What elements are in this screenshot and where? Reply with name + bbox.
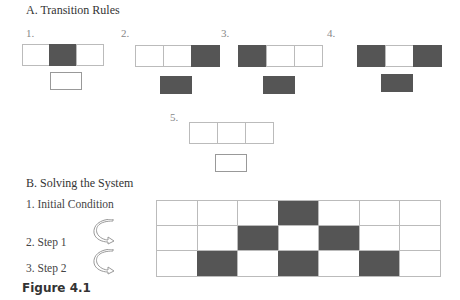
- rule-number: 3.: [221, 27, 229, 39]
- rule-cell: [22, 44, 50, 66]
- grid-cell: [197, 201, 238, 226]
- grid-cell: [157, 201, 198, 226]
- rule-cell: [294, 45, 323, 67]
- rule-cell: [245, 122, 274, 144]
- rule-output: [215, 154, 247, 172]
- grid-cell: [278, 226, 319, 251]
- grid-cell: [400, 251, 440, 276]
- rule-cell: [191, 45, 220, 67]
- rule-cell: [163, 45, 192, 67]
- rule-cell: [217, 122, 246, 144]
- grid-cell: [400, 201, 440, 226]
- grid-cell: [319, 201, 360, 226]
- grid-cell: [157, 251, 198, 276]
- rule-cell: [357, 45, 386, 67]
- step-label-initial: 1. Initial Condition: [26, 198, 114, 210]
- grid-cell: [359, 201, 400, 226]
- grid-cell: [359, 251, 400, 276]
- curved-arrow-icon: [93, 219, 117, 245]
- grid-cell: [400, 226, 440, 251]
- rule-output: [263, 76, 295, 94]
- grid-cell: [197, 226, 238, 251]
- grid-cell: [238, 226, 279, 251]
- grid-cell: [157, 226, 198, 251]
- grid-cell: [197, 251, 238, 276]
- rule-cell: [385, 45, 414, 67]
- rule-output: [50, 72, 82, 90]
- grid-cell: [359, 226, 400, 251]
- rule-number: 5.: [170, 111, 178, 123]
- grid-cell: [278, 201, 319, 226]
- rule-output: [381, 74, 413, 92]
- rule-cell: [135, 45, 164, 67]
- grid-cell: [238, 201, 279, 226]
- rule-number: 2.: [121, 27, 129, 39]
- rule-cell: [413, 45, 442, 67]
- rule-output: [160, 76, 192, 94]
- rule-cell: [189, 122, 218, 144]
- section-a-title: A. Transition Rules: [26, 3, 120, 18]
- rule-number: 4.: [327, 27, 335, 39]
- grid-cell: [238, 251, 279, 276]
- rule-cell: [49, 44, 77, 66]
- rule-cell: [266, 45, 295, 67]
- figure-caption: Figure 4.1: [22, 281, 91, 295]
- rule-number: 1.: [26, 27, 34, 39]
- curved-arrow-icon: [93, 249, 117, 275]
- grid-cell: [319, 251, 360, 276]
- grid-cell: [319, 226, 360, 251]
- grid-cell: [278, 251, 319, 276]
- step-label-1: 2. Step 1: [26, 236, 67, 248]
- rule-cell: [76, 44, 104, 66]
- automaton-grid: [156, 200, 441, 277]
- step-label-2: 3. Step 2: [26, 262, 67, 274]
- section-b-title: B. Solving the System: [26, 176, 133, 191]
- rule-cell: [238, 45, 267, 67]
